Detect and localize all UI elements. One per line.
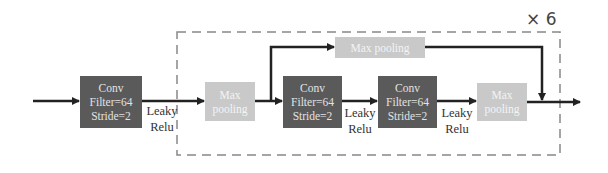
activation-line1: Leaky bbox=[340, 105, 380, 121]
maxpool-block-entry: Max pooling bbox=[205, 82, 255, 121]
activation-line1: Leaky bbox=[142, 103, 182, 119]
activation-line2: Relu bbox=[142, 119, 182, 135]
conv-title: Conv bbox=[99, 81, 124, 95]
maxpool-block-exit: Max pooling bbox=[477, 83, 527, 121]
conv-filter: Filter=64 bbox=[386, 95, 429, 109]
activation-label-b: Leaky Relu bbox=[436, 105, 478, 137]
repeat-count-label: × 6 bbox=[526, 9, 556, 29]
conv-stride: Stride=2 bbox=[293, 109, 333, 123]
pool-title: Max bbox=[219, 88, 240, 102]
conv-title: Conv bbox=[300, 81, 325, 95]
activation-line2: Relu bbox=[436, 121, 478, 137]
pool-label: Max pooling bbox=[350, 41, 409, 55]
activation-label-a: Leaky Relu bbox=[340, 105, 380, 137]
activation-line2: Relu bbox=[340, 121, 380, 137]
conv-title: Conv bbox=[395, 81, 420, 95]
conv-stride: Stride=2 bbox=[91, 109, 131, 123]
activation-label-input: Leaky Relu bbox=[142, 103, 182, 135]
conv-filter: Filter=64 bbox=[90, 95, 133, 109]
conv-block-input: Conv Filter=64 Stride=2 bbox=[80, 76, 142, 128]
maxpool-block-skip: Max pooling bbox=[335, 37, 425, 58]
pool-subtitle: pooling bbox=[484, 102, 519, 116]
conv-stride: Stride=2 bbox=[388, 109, 428, 123]
conv-block-a: Conv Filter=64 Stride=2 bbox=[283, 76, 342, 128]
conv-filter: Filter=64 bbox=[291, 95, 334, 109]
activation-line1: Leaky bbox=[436, 105, 478, 121]
pool-subtitle: pooling bbox=[212, 102, 247, 116]
pool-title: Max bbox=[491, 88, 512, 102]
conv-block-b: Conv Filter=64 Stride=2 bbox=[378, 76, 437, 128]
